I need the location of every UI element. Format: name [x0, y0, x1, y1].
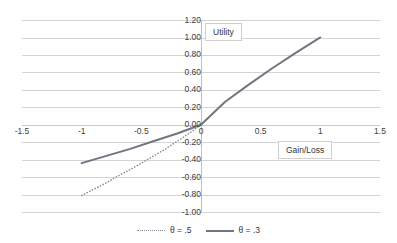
x-tick-label: -1.5 [15, 127, 30, 136]
utility-function-chart: 1.201.000.800.600.400.200.00-0.20-0.40-0… [0, 0, 397, 243]
y-tick-label: -0.60 [182, 173, 201, 182]
y-tick-label: 1.00 [184, 33, 201, 42]
legend-swatch-solid-icon [206, 226, 234, 235]
y-tick-label: 0.40 [184, 85, 201, 94]
y-tick-label: -0.40 [182, 155, 201, 164]
x-axis-tick-labels: -1.5-1-0.500.511.5 [0, 127, 397, 139]
y-axis-title: Utility [205, 23, 242, 41]
chart-legend: θ = .5θ = .3 [0, 222, 397, 238]
x-tick-label: 1.5 [374, 127, 386, 136]
legend-entry: θ = .5 [137, 226, 192, 235]
y-tick-label: 1.20 [184, 16, 201, 25]
x-tick-label: -1 [78, 127, 86, 136]
legend-label: θ = .3 [239, 226, 261, 235]
y-tick-label: -1.00 [182, 208, 201, 217]
legend-label: θ = .5 [170, 226, 192, 235]
x-tick-label: 1 [318, 127, 323, 136]
y-tick-label: 0.80 [184, 50, 201, 59]
y-tick-label: 0.20 [184, 103, 201, 112]
x-tick-label: 0 [199, 127, 204, 136]
x-tick-label: 0.5 [255, 127, 267, 136]
y-tick-label: -0.80 [182, 190, 201, 199]
y-tick-label: 0.60 [184, 68, 201, 77]
y-axis-tick-labels: 1.201.000.800.600.400.200.00-0.20-0.40-0… [0, 20, 201, 212]
legend-entry: θ = .3 [206, 226, 261, 235]
x-tick-label: -0.5 [134, 127, 149, 136]
gridline [22, 212, 380, 213]
legend-swatch-dotted-icon [137, 226, 165, 235]
y-tick-label: -0.20 [182, 138, 201, 147]
x-axis-title: Gain/Loss [278, 141, 332, 159]
